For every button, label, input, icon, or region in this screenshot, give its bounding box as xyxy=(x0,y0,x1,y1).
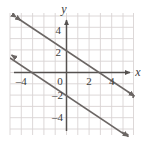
plot-line-upper-arrow-start xyxy=(17,18,21,20)
x-tick-label-neg4: –4 xyxy=(15,75,28,87)
x-axis-label: x xyxy=(134,65,141,79)
y-tick-label-2: 2 xyxy=(56,46,62,58)
coordinate-plane-figure: y x –4 0 2 4 4 2 –2 –4 xyxy=(0,0,148,144)
y-tick-label-4: 4 xyxy=(56,24,62,36)
y-axis-label: y xyxy=(60,2,67,16)
grid-lines xyxy=(10,13,134,135)
y-tick-label-neg2: –2 xyxy=(51,89,63,101)
plot-line-upper xyxy=(17,18,139,99)
y-tick-label-neg4: –4 xyxy=(51,111,64,123)
plot-line-lower xyxy=(10,58,131,139)
x-tick-label-4: 4 xyxy=(109,75,115,87)
plot-line-lower-arrow-start xyxy=(12,55,17,58)
x-tick-label-2: 2 xyxy=(86,75,92,87)
x-tick-label-0: 0 xyxy=(57,75,63,87)
graph-canvas: y x –4 0 2 4 4 2 –2 –4 xyxy=(0,0,148,144)
